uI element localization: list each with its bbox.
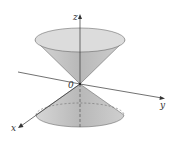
double-cone-diagram: z y x 0 (0, 0, 180, 149)
origin-point (79, 83, 81, 85)
x-axis-arrow-icon (18, 123, 24, 128)
origin-label: 0 (68, 80, 74, 90)
y-axis-label: y (159, 100, 166, 110)
z-axis-arrow-icon (78, 14, 82, 19)
z-axis-label: z (72, 12, 78, 22)
x-axis-label: x (11, 123, 16, 133)
